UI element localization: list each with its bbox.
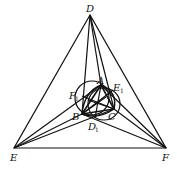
label-d: D (85, 3, 94, 14)
svg-text:1: 1 (120, 87, 124, 94)
geometry-diagram: D E F A B C E 1 F 1 D 1 (0, 0, 177, 177)
label-b: B (71, 111, 79, 122)
label-e: E (9, 152, 18, 163)
label-c: C (108, 111, 116, 122)
segment-f-c (114, 109, 166, 148)
label-d1: D 1 (87, 121, 99, 133)
label-f1: F 1 (68, 90, 79, 102)
svg-text:1: 1 (95, 126, 99, 133)
svg-text:1: 1 (75, 95, 79, 102)
label-f: F (161, 152, 170, 163)
label-e1: E 1 (112, 82, 124, 94)
label-a: A (96, 75, 104, 86)
segment-e-c (14, 109, 114, 148)
